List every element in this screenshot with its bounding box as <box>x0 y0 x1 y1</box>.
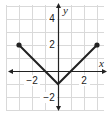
y-axis-label: y <box>62 4 68 16</box>
tick-label-y-neg2: −2 <box>43 92 55 103</box>
x-axis-label: x <box>98 57 104 69</box>
tick-label-y-4: 4 <box>49 13 55 24</box>
endpoint-right <box>94 42 99 47</box>
x-axis <box>8 69 107 74</box>
coordinate-graph: −2 2 4 2 −2 y x <box>0 0 111 114</box>
graph-svg: −2 2 4 2 −2 y x <box>0 0 111 114</box>
tick-label-x-neg2: −2 <box>26 75 38 86</box>
tick-label-y-2: 2 <box>49 39 55 50</box>
endpoint-left <box>16 42 21 47</box>
tick-label-x-2: 2 <box>81 75 87 86</box>
